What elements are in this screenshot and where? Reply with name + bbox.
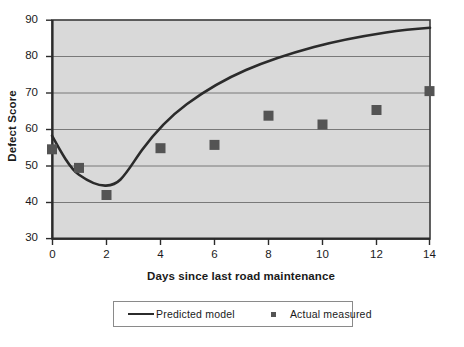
y-axis-ticks bbox=[46, 20, 52, 238]
legend-label-actual-measured: Actual measured bbox=[290, 308, 372, 320]
legend-marker-swatch-icon bbox=[261, 312, 287, 317]
legend-item-predicted-model: Predicted model bbox=[128, 308, 235, 320]
x-tick-label-4: 4 bbox=[148, 248, 174, 260]
data-point bbox=[210, 140, 220, 150]
x-axis-ticks bbox=[53, 239, 430, 245]
x-axis-title: Days since last road maintenance bbox=[52, 270, 430, 282]
data-point bbox=[102, 190, 112, 200]
chart-plot-area bbox=[0, 0, 464, 347]
x-tick-label-14: 14 bbox=[417, 248, 443, 260]
x-tick-label-10: 10 bbox=[310, 248, 336, 260]
data-point bbox=[74, 163, 84, 173]
data-point bbox=[318, 120, 328, 130]
y-axis-title: Defect Score bbox=[6, 66, 18, 186]
chart-container: 90 80 70 60 50 40 30 0 2 4 6 8 10 12 14 … bbox=[0, 0, 464, 347]
x-tick-label-8: 8 bbox=[256, 248, 282, 260]
y-tick-label-30: 30 bbox=[12, 231, 38, 243]
x-tick-label-12: 12 bbox=[364, 248, 390, 260]
legend-label-predicted-model: Predicted model bbox=[156, 308, 235, 320]
y-tick-label-80: 80 bbox=[12, 49, 38, 61]
y-tick-label-90: 90 bbox=[12, 13, 38, 25]
x-tick-label-0: 0 bbox=[40, 248, 66, 260]
data-point bbox=[264, 111, 274, 121]
y-axis-title-wrapper: Defect Score bbox=[2, 70, 22, 190]
data-point bbox=[425, 86, 435, 96]
data-point bbox=[156, 143, 166, 153]
x-tick-label-6: 6 bbox=[202, 248, 228, 260]
legend-item-actual-measured: Actual measured bbox=[261, 308, 372, 320]
data-point bbox=[47, 144, 57, 154]
y-tick-label-40: 40 bbox=[12, 195, 38, 207]
data-point bbox=[372, 105, 382, 115]
square-marker-icon bbox=[271, 312, 276, 317]
legend-line-swatch-icon bbox=[128, 313, 154, 316]
chart-legend: Predicted model Actual measured bbox=[113, 301, 353, 327]
x-tick-label-2: 2 bbox=[94, 248, 120, 260]
